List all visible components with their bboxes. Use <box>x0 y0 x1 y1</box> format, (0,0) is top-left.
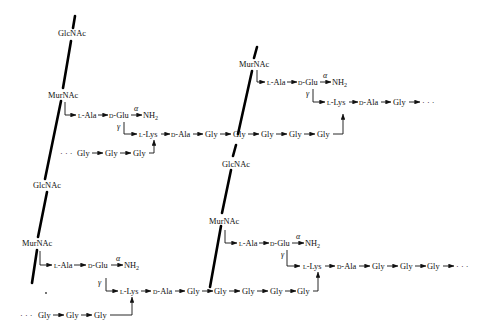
ellipsis: · · · <box>422 98 435 107</box>
residue-gly: Gly <box>77 149 90 158</box>
crossbridge-lower: Gly Gly Gly Gly <box>214 272 318 296</box>
sugar-label-glcnac: GlcNAc <box>222 160 250 169</box>
gamma-label: γ <box>306 89 310 98</box>
residue-nh2: NH2 <box>143 111 158 121</box>
residue-gly: Gly <box>94 311 107 320</box>
residue-l-lys: L-Lys <box>303 262 322 271</box>
residue-d-ala: D-Ala <box>337 262 357 271</box>
alpha-label: α <box>296 232 301 241</box>
gamma-label: γ <box>98 278 102 287</box>
backbone-segment <box>233 145 236 156</box>
residue-gly: Gly <box>105 149 118 158</box>
residue-l-ala: L-Ala <box>239 239 258 248</box>
stem-peptide-left-lower: L-Ala D-Glu α NH2 γ L-Lys D-Ala Gly <box>40 251 213 296</box>
residue-l-ala: L-Ala <box>54 261 73 270</box>
backbone-segment <box>38 192 47 237</box>
gamma-label: γ <box>117 122 121 131</box>
residue-nh2: NH2 <box>124 261 139 271</box>
residue-gly: Gly <box>242 287 255 296</box>
crossbridge-incoming-left-lower: · · · Gly Gly Gly <box>20 297 132 320</box>
residue-gly: Gly <box>400 262 413 271</box>
diagram-canvas: GlcNAc MurNAc GlcNAc MurNAc MurNAc GlcNA… <box>0 0 482 336</box>
sugar-label-murnac: MurNAc <box>209 217 240 226</box>
residue-l-lys: L-Lys <box>327 98 346 107</box>
crossbridge-incoming-left-upper: · · · Gly Gly Gly <box>60 140 154 158</box>
residue-gly: Gly <box>270 287 283 296</box>
backbone-segment <box>254 47 257 58</box>
residue-nh2: NH2 <box>332 78 347 88</box>
residue-nh2: NH2 <box>305 239 320 249</box>
backbone-segment <box>210 226 221 287</box>
backbone-segment <box>238 71 252 134</box>
sugar-label-murnac: MurNAc <box>22 239 53 248</box>
residue-gly: Gly <box>393 98 406 107</box>
backbone-segment <box>63 41 71 88</box>
ellipsis: · · · <box>456 262 469 271</box>
residue-l-lys: L-Lys <box>139 130 158 139</box>
gamma-label: γ <box>281 250 285 259</box>
residue-gly: Gly <box>133 149 146 158</box>
stem-peptide-right-lower: L-Ala D-Glu α NH2 γ L-Lys D-Ala Gly Gly … <box>225 230 469 271</box>
alpha-label: α <box>323 71 328 80</box>
residue-gly: Gly <box>214 287 227 296</box>
residue-gly: Gly <box>289 130 302 139</box>
residue-gly: Gly <box>372 262 385 271</box>
residue-gly: Gly <box>297 287 310 296</box>
residue-gly: Gly <box>187 287 200 296</box>
residue-l-ala: L-Ala <box>78 111 97 120</box>
residue-d-ala: D-Ala <box>359 98 379 107</box>
sugar-label-murnac: MurNAc <box>239 60 270 69</box>
sugar-label-glcnac: GlcNAc <box>33 181 61 190</box>
sugar-label-glcnac: GlcNAc <box>58 29 86 38</box>
dot-mark <box>45 292 47 294</box>
residue-d-glu: D-Glu <box>298 78 319 87</box>
alpha-label: α <box>134 104 139 113</box>
residue-l-ala: L-Ala <box>267 78 286 87</box>
residue-d-ala: D-Ala <box>153 287 173 296</box>
residue-gly: Gly <box>205 130 218 139</box>
backbone-segment <box>32 250 37 283</box>
residue-gly: Gly <box>233 130 246 139</box>
residue-gly: Gly <box>38 311 51 320</box>
backbone-segment <box>45 101 61 179</box>
alpha-label: α <box>116 254 121 263</box>
residue-gly: Gly <box>66 311 79 320</box>
backbone-segment <box>222 170 231 213</box>
residue-gly: Gly <box>427 262 440 271</box>
residue-d-glu: D-Glu <box>88 261 109 270</box>
residue-gly: Gly <box>261 130 274 139</box>
residue-d-glu: D-Glu <box>270 239 291 248</box>
residue-gly: Gly <box>317 130 330 139</box>
backbone-segment <box>73 16 75 28</box>
residue-l-lys: L-Lys <box>120 287 139 296</box>
residue-d-glu: D-Glu <box>109 111 130 120</box>
residue-d-ala: D-Ala <box>171 130 191 139</box>
ellipsis: · · · <box>20 311 33 320</box>
stem-peptide-left-upper: L-Ala D-Glu α NH2 γ L-Lys D-Ala Gly <box>65 102 231 139</box>
sugar-label-murnac: MurNAc <box>48 91 79 100</box>
crossbridge-upper: Gly Gly Gly Gly <box>233 114 343 139</box>
peptidoglycan-diagram: GlcNAc MurNAc GlcNAc MurNAc MurNAc GlcNA… <box>0 0 482 336</box>
ellipsis: · · · <box>60 149 73 158</box>
stem-peptide-right-upper: L-Ala D-Glu α NH2 γ L-Lys D-Ala Gly · · … <box>257 70 435 107</box>
